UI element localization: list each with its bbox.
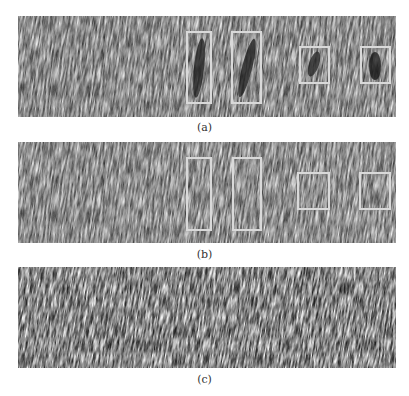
highlight-box-1	[186, 31, 212, 104]
highlight-box-2	[232, 157, 262, 231]
highlight-box-3	[297, 172, 330, 210]
highlight-box-3	[299, 46, 330, 84]
caption-a: (a)	[0, 122, 409, 134]
image-panel-b	[18, 142, 396, 243]
caption-c: (c)	[0, 374, 409, 386]
fiber-texture-image	[18, 267, 396, 368]
image-panel-a	[18, 16, 396, 117]
image-panel-c	[18, 267, 396, 368]
highlight-box-2	[231, 31, 262, 104]
highlight-box-4	[360, 46, 391, 84]
highlight-box-4	[359, 172, 391, 210]
caption-b: (b)	[0, 249, 409, 261]
highlight-box-1	[186, 157, 212, 231]
